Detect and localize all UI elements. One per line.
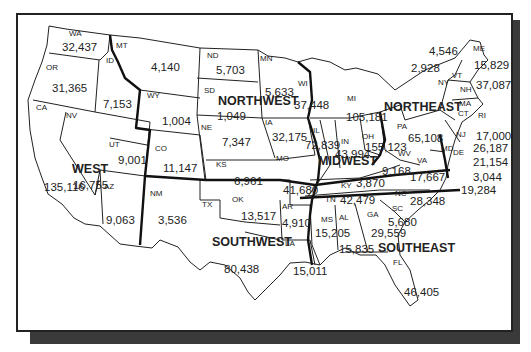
state-value-tx: 80,438 [224,264,259,276]
state-abbr-ga: GA [367,211,379,219]
state-abbr-ny: NY [438,79,449,87]
state-value-ky: 3,870 [356,178,385,190]
state-value-co: 11,147 [163,163,197,175]
state-value-mn: 5,633 [265,87,294,99]
state-value-ok: 13,517 [241,211,276,223]
state-value-or: 31,365 [52,83,87,95]
state-abbr-nv: NV [66,112,77,120]
state-value-ks: 6,961 [234,176,263,188]
state-abbr-oh: OH [362,133,374,141]
state-value-al: 15,835 [339,244,374,256]
state-value-ga: 29,559 [371,228,406,240]
state-abbr-co: CO [155,145,167,153]
state-abbr-ut: UT [109,141,120,149]
state-value-md: 3,044 [473,172,502,184]
state-abbr-ct: CT [458,110,469,118]
state-abbr-va: VA [417,157,427,165]
state-abbr-il: IL [313,127,320,135]
state-value-az: 9,063 [106,215,135,227]
state-abbr-al: AL [339,214,349,222]
state-value-pa: 65,108 [408,133,443,145]
state-abbr-or: OR [46,64,58,72]
state-abbr-fl: FL [393,259,402,267]
state-value-ut: 9,001 [118,155,147,167]
state-value-va: 17,667 [410,172,445,184]
state-value-mt: 4,140 [151,62,180,74]
region-label-northeast: NORTHEAST [384,101,462,114]
state-abbr-mt: MT [116,42,128,50]
state-value-fl: 46,405 [404,287,439,299]
state-abbr-ks: KS [216,161,227,169]
state-abbr-id: ID [106,57,114,65]
state-abbr-wy: WY [147,92,160,100]
state-abbr-la: LA [285,240,295,248]
state-abbr-pa: PA [397,123,407,131]
state-abbr-ar: AR [282,203,293,211]
region-label-west: WEST [72,163,108,176]
state-abbr-mi: MI [347,95,356,103]
region-label-southeast: SOUTHEAST [378,242,455,255]
state-value-nm: 3,536 [158,215,187,227]
state-value-nv: 16,755 [73,180,108,192]
state-value-vt: 4,546 [429,46,458,58]
state-abbr-ri: RI [478,112,486,120]
state-abbr-tx: TX [202,201,212,209]
state-abbr-vt: VT [452,72,462,80]
state-value-nj: 26,187 [473,143,508,155]
state-value: 19,284 [461,185,496,197]
state-abbr-ms: MS [321,216,333,224]
region-label-southwest: SOUTHWEST [212,236,292,249]
state-value-nd: 5,703 [216,65,245,77]
state-abbr-tn: TN [325,196,336,204]
state-value-id: 7,153 [103,99,132,111]
state-value-me: 15,829 [474,60,509,72]
state-value-wy: 1,004 [162,116,191,128]
state-abbr-ca: CA [36,104,47,112]
state-abbr-nd: ND [207,52,219,60]
state-abbr-de: DE [453,149,464,157]
state-abbr-ia: IA [265,119,273,127]
state-value-la: 15,011 [293,266,327,278]
state-abbr-wv: WV [398,150,411,158]
state-value-ny: 2,928 [411,63,440,75]
state-value-sc: 5,680 [388,217,417,229]
state-value-ar: 4,910 [282,218,311,230]
state-value-ri: 17,000 [476,131,511,143]
state-abbr-wi: WI [298,80,308,88]
state-value-wv: 9,168 [382,166,411,178]
state-abbr-in: IN [341,138,349,146]
state-value-mi: 105,181 [346,112,388,124]
state-value-ne: 7,347 [222,137,251,149]
state-abbr-mn: MN [260,55,272,63]
state-abbr-nm: NM [150,190,162,198]
state-value-wa: 32,437 [62,42,97,54]
state-abbr-md: MD [441,145,453,153]
state-value-nc: 28,348 [410,196,445,208]
state-abbr-sc: SC [392,205,403,213]
state-abbr-az: AZ [104,183,114,191]
state-value-de: 21,154 [473,157,508,169]
state-abbr-mo: MO [276,155,289,163]
state-abbr-nh: NH [460,86,472,94]
state-abbr-nc: NC [395,190,407,198]
state-value-mo: 41,680 [283,185,318,197]
state-abbr-nj: NJ [456,131,466,139]
state-abbr-me: ME [473,45,485,53]
state-abbr-ky: KY [341,182,352,190]
state-abbr-ne: NE [201,124,212,132]
state-value-ia: 32,175 [272,132,307,144]
state-value-tn: 42,479 [340,195,375,207]
state-abbr-sd: SD [204,87,215,95]
state-value-wi: 37,448 [294,100,329,112]
state-abbr-ok: OK [232,196,244,204]
state-value-nh: 37,087 [476,80,511,92]
state-value-sd: 1,049 [217,111,246,123]
state-abbr-wa: WA [69,30,82,38]
state-abbr-ma: MA [459,100,471,108]
state-value-ms: 15,205 [315,228,350,240]
